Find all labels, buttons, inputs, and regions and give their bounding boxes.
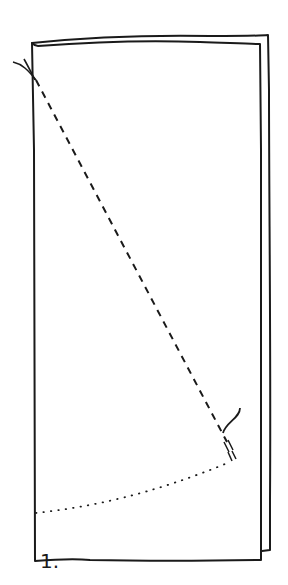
crease-mark bbox=[224, 440, 236, 461]
folding-diagram bbox=[0, 0, 288, 585]
back-sheet bbox=[32, 35, 270, 551]
front-sheet bbox=[32, 41, 261, 561]
dotted-arc bbox=[36, 462, 230, 513]
dashed-fold-line bbox=[36, 80, 227, 442]
crease-hook bbox=[223, 408, 240, 433]
step-label: 1. bbox=[40, 551, 59, 571]
